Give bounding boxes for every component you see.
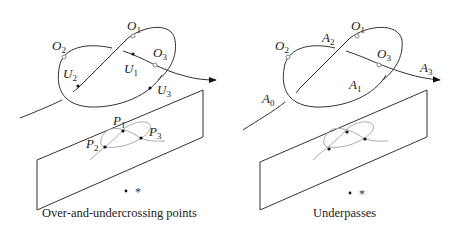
label-u3: U3	[157, 82, 171, 99]
viewpoint-dot	[349, 192, 352, 195]
label-o2: O2	[275, 38, 289, 55]
over-point-o3	[377, 63, 381, 67]
label-u1: U1	[124, 61, 138, 78]
label-a0: A0	[261, 91, 275, 108]
left-panel: O1 O2 O3 U1 U2 U3 P1 P2 P3 * Over-and-un…	[20, 18, 216, 220]
label-o1: O1	[351, 18, 365, 35]
label-a2: A2	[321, 30, 334, 47]
over-point-o1	[355, 34, 359, 38]
label-p2: P2	[85, 136, 98, 153]
over-point-o1	[131, 34, 135, 38]
projection-point-p2	[103, 145, 106, 148]
projected-curve	[313, 122, 388, 160]
over-point-o3	[153, 63, 157, 67]
label-a1: A1	[348, 77, 361, 94]
knot-curve	[20, 100, 62, 118]
knot-curve	[243, 102, 285, 130]
under-point-u3	[148, 86, 151, 89]
label-o2: O2	[52, 38, 66, 55]
label-o1: O1	[127, 18, 141, 35]
projection-point-p3	[139, 136, 142, 139]
caption-right: Underpasses	[313, 206, 376, 220]
projection-plane	[37, 90, 203, 210]
viewpoint-dot	[125, 190, 128, 193]
projection-point-2	[327, 147, 330, 150]
under-point-u1	[131, 52, 134, 55]
over-point-o2	[286, 55, 290, 59]
label-p3: P3	[148, 124, 162, 141]
label-o3: O3	[153, 45, 167, 62]
label-a3: A3	[419, 60, 433, 77]
caption-left: Over-and-undercrossing points	[42, 206, 197, 220]
viewpoint-asterisk: *	[135, 185, 141, 199]
projection-point-3	[363, 137, 366, 140]
under-point-u2	[76, 84, 79, 87]
projection-plane	[260, 90, 427, 210]
label-o3: O3	[377, 46, 391, 63]
right-panel: O1 O2 O3 A0 A1 A2 A3 * Underpasses	[243, 18, 440, 220]
over-point-o2	[62, 55, 66, 59]
viewpoint-asterisk: *	[359, 187, 365, 201]
knot-diagram-figure: O1 O2 O3 U1 U2 U3 P1 P2 P3 * Over-and-un…	[0, 0, 458, 230]
label-p1: P1	[112, 113, 125, 130]
knot-curve	[283, 46, 386, 107]
label-u2: U2	[63, 66, 77, 83]
projection-point-1	[345, 130, 348, 133]
